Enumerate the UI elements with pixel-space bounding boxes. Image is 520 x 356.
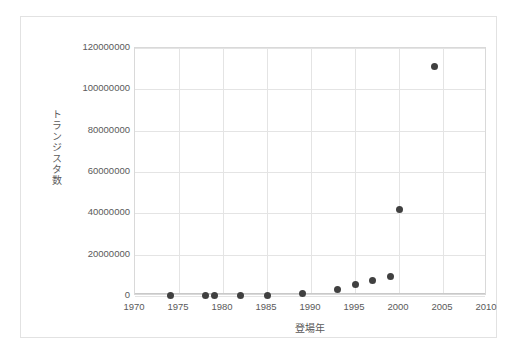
gridline-horizontal	[135, 255, 485, 256]
x-axis-line	[135, 293, 485, 294]
y-tick-label: 120000000	[30, 42, 130, 52]
chart-frame: 0200000004000000060000000800000001000000…	[20, 16, 497, 338]
plot-area	[134, 47, 486, 295]
gridline-horizontal	[135, 48, 485, 49]
gridline-vertical	[443, 48, 444, 294]
y-tick-label: 80000000	[30, 125, 130, 135]
x-tick-label: 2005	[431, 302, 452, 312]
x-tick-label: 2000	[387, 302, 408, 312]
gridline-horizontal	[135, 296, 485, 297]
y-axis-tick-labels: 0200000004000000060000000800000001000000…	[24, 47, 130, 295]
data-point	[264, 292, 271, 299]
gridline-horizontal	[135, 89, 485, 90]
x-tick-label: 1980	[211, 302, 232, 312]
gridline-vertical	[223, 48, 224, 294]
x-tick-label: 1985	[255, 302, 276, 312]
gridline-vertical	[311, 48, 312, 294]
gridline-vertical	[267, 48, 268, 294]
y-tick-label: 0	[30, 290, 130, 300]
y-tick-label: 60000000	[30, 166, 130, 176]
x-tick-label: 1970	[123, 302, 144, 312]
gridline-vertical	[179, 48, 180, 294]
data-point	[299, 290, 306, 297]
gridline-vertical	[399, 48, 400, 294]
y-tick-label: 20000000	[30, 249, 130, 259]
x-axis-title: 登場年	[134, 320, 486, 335]
data-point	[431, 63, 438, 70]
gridline-horizontal	[135, 213, 485, 214]
data-point	[387, 273, 394, 280]
x-tick-label: 1975	[167, 302, 188, 312]
page-root: 0200000004000000060000000800000001000000…	[0, 0, 520, 356]
y-axis-title: トランジスタ数	[49, 109, 63, 186]
data-point	[237, 292, 244, 299]
data-point	[202, 292, 209, 299]
data-point	[396, 206, 403, 213]
y-tick-label: 100000000	[30, 84, 130, 94]
y-tick-label: 40000000	[30, 208, 130, 218]
data-point	[352, 281, 359, 288]
data-point	[167, 292, 174, 299]
data-point	[211, 292, 218, 299]
x-tick-label: 1995	[343, 302, 364, 312]
x-axis-tick-labels: 197019751980198519901995200020052010	[134, 302, 486, 316]
gridline-vertical	[355, 48, 356, 294]
data-point	[369, 277, 376, 284]
gridline-horizontal	[135, 172, 485, 173]
x-tick-label: 1990	[299, 302, 320, 312]
x-tick-label: 2010	[475, 302, 496, 312]
gridline-horizontal	[135, 131, 485, 132]
data-point	[334, 286, 341, 293]
